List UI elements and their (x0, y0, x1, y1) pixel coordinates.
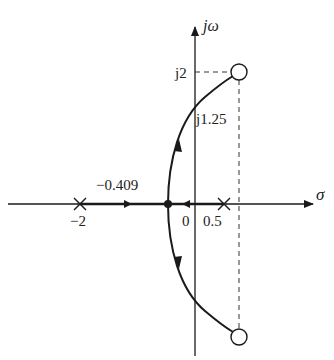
arrow-right-icon (124, 200, 132, 208)
zero-imag-label: j2 (174, 65, 187, 81)
breakaway-point (164, 200, 172, 208)
root-locus-diagram: jω σ j2 j1.25 −0.409 −2 0 0.5 (0, 0, 334, 360)
origin-label: 0 (182, 213, 190, 229)
breakaway-label: −0.409 (96, 177, 138, 193)
real-axis-label: σ (316, 185, 325, 204)
imag-axis-label: jω (201, 17, 219, 35)
jw-crossing-label: j1.25 (195, 111, 226, 127)
pole-0-5-label: 0.5 (203, 213, 222, 229)
arrow-left-icon (182, 200, 190, 208)
zero-lower (231, 329, 247, 345)
real-axis-locus (80, 200, 224, 208)
pole-minus-2-label: −2 (70, 213, 86, 229)
zero-upper (231, 64, 247, 80)
